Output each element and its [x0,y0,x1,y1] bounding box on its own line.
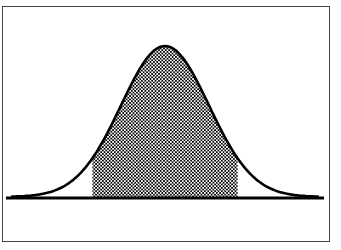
normal-curve-plot [0,0,341,250]
